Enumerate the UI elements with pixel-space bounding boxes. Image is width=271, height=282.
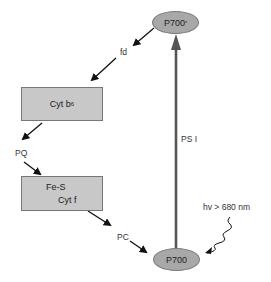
pc-label: PC bbox=[117, 232, 129, 242]
fd-label: fd bbox=[120, 47, 127, 57]
arrow-pq-fes bbox=[24, 162, 40, 174]
pq-label: PQ bbox=[15, 148, 27, 158]
cyt-b6-box: Cyt b6 bbox=[21, 87, 103, 121]
light-label: hv > 680 nm bbox=[203, 202, 250, 212]
arrow-fes-pc bbox=[88, 211, 110, 225]
arrows-layer bbox=[0, 0, 271, 282]
light-wavy-arrow bbox=[207, 217, 231, 253]
arrow-p700star-fd bbox=[134, 28, 154, 45]
arrow-fd-cytb6 bbox=[92, 58, 116, 80]
p700-excited-superscript: * bbox=[185, 20, 187, 26]
p700-label: P700 bbox=[166, 255, 187, 265]
psi-label: PS I bbox=[181, 134, 197, 144]
cyt-b6-label: Cyt b bbox=[50, 99, 71, 109]
fes-label: Fe-S bbox=[46, 182, 66, 192]
p700-excited-label: P700 bbox=[164, 18, 185, 28]
arrow-cytb6-pq bbox=[23, 123, 42, 139]
p700-excited-node: P700* bbox=[152, 11, 199, 34]
fes-cytf-box: Fe-S Cyt f bbox=[21, 176, 103, 211]
psi-arrowhead bbox=[171, 34, 181, 50]
arrow-pc-p700 bbox=[130, 241, 146, 252]
p700-node: P700 bbox=[153, 248, 200, 271]
cytf-label: Cyt f bbox=[58, 195, 77, 205]
cyt-b6-subscript: 6 bbox=[71, 101, 74, 107]
